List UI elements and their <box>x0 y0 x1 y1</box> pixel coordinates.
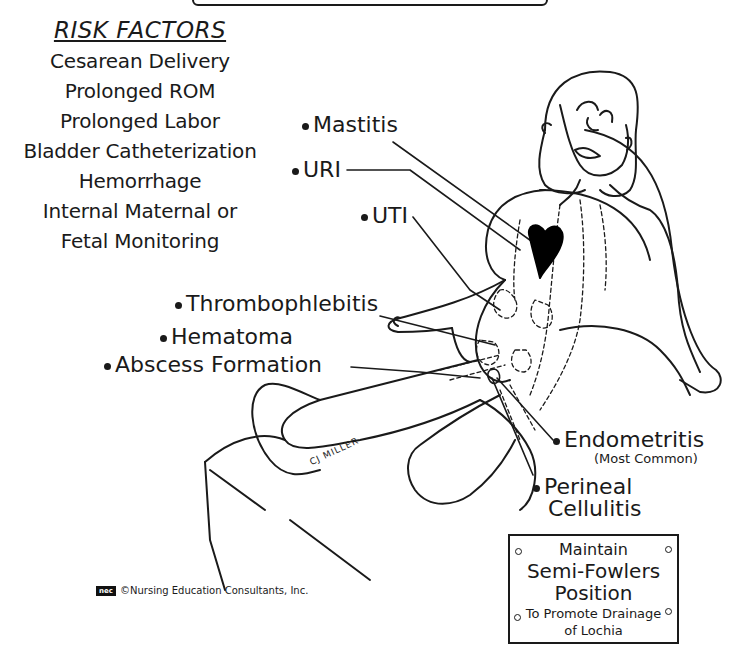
risk-factor-item: Prolonged ROM <box>0 76 280 106</box>
bullet-icon <box>175 302 182 309</box>
label-abscess-formation: Abscess Formation <box>104 352 322 378</box>
label-endometritis: Endometritis <box>553 427 704 453</box>
risk-factor-item: Cesarean Delivery <box>0 46 280 76</box>
screw-icon <box>514 614 521 621</box>
risk-factor-item: Bladder Catheterization <box>0 136 280 166</box>
copyright-footer: nec ©Nursing Education Consultants, Inc. <box>96 585 308 596</box>
label-mastitis: Mastitis <box>302 112 398 138</box>
risk-factor-item: Fetal Monitoring <box>0 226 280 256</box>
risk-factor-item: Internal Maternal or <box>0 196 280 226</box>
bullet-icon <box>292 168 299 175</box>
bullet-icon <box>361 214 368 221</box>
endometritis-note: (Most Common) <box>594 451 698 466</box>
bullet-icon <box>533 485 540 492</box>
copyright-text: ©Nursing Education Consultants, Inc. <box>120 585 308 596</box>
risk-factors-panel: RISK FACTORS Cesarean Delivery Prolonged… <box>0 14 280 256</box>
sign-line-position: Position <box>510 582 677 604</box>
bullet-icon <box>302 123 309 130</box>
nec-logo-icon: nec <box>96 586 116 596</box>
semi-fowlers-sign: Maintain Semi-Fowlers Position To Promot… <box>508 534 679 644</box>
bullet-icon <box>553 438 560 445</box>
sign-line-maintain: Maintain <box>510 540 677 560</box>
screw-icon <box>515 548 522 555</box>
label-uri: URI <box>292 157 341 183</box>
risk-factor-item: Prolonged Labor <box>0 106 280 136</box>
screw-icon <box>665 546 672 553</box>
screw-icon <box>665 608 672 615</box>
sign-line-semi-fowlers: Semi-Fowlers <box>510 560 677 582</box>
label-perineal-cellulitis-line2: Cellulitis <box>548 496 642 522</box>
sign-line-lochia: of Lochia <box>510 623 677 638</box>
risk-factors-title: RISK FACTORS <box>0 14 280 46</box>
label-thrombophlebitis: Thrombophlebitis <box>175 291 378 317</box>
label-hematoma: Hematoma <box>160 324 293 350</box>
risk-factor-item: Hemorrhage <box>0 166 280 196</box>
bullet-icon <box>104 363 111 370</box>
sign-line-drainage: To Promote Drainage <box>510 606 677 621</box>
label-uti: UTI <box>361 203 408 229</box>
bullet-icon <box>160 335 167 342</box>
